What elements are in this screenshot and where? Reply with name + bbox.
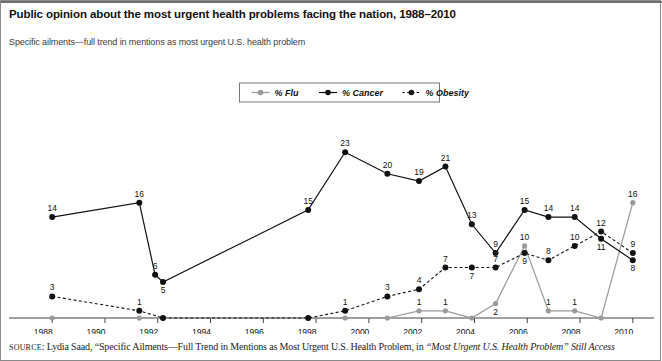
x-axis-tick-label: 2004: [456, 327, 475, 334]
data-point: [342, 308, 348, 314]
data-point: [342, 149, 348, 155]
data-point: [545, 257, 551, 263]
data-point-label: 1: [443, 297, 448, 307]
data-point-label: 1: [137, 297, 142, 307]
source-text-a: : Lydia Saad, “Specific Ailments—Full Tr…: [42, 341, 426, 352]
data-point-label: 10: [570, 232, 580, 242]
data-point-label: 6: [153, 261, 158, 271]
data-point: [416, 286, 422, 292]
data-point-label: 1: [572, 297, 577, 307]
data-point-label: 16: [135, 189, 145, 199]
data-point: [442, 164, 448, 170]
line-chart-svg: 1988199019921994199619982000200220042006…: [1, 61, 662, 334]
legend-marker: [409, 90, 415, 96]
data-point-label: 10: [520, 232, 530, 242]
data-point-label: 4: [417, 275, 422, 285]
source-label: SOURCE: [9, 343, 42, 352]
data-point: [384, 293, 390, 299]
data-point: [469, 315, 474, 320]
data-point-label: 13: [467, 210, 477, 220]
data-point: [572, 214, 578, 220]
x-axis-tick-label: 2008: [562, 327, 581, 334]
data-point-label: 3: [385, 282, 390, 292]
source-text-b: “Most Urgent U.S. Health Problem” Still …: [426, 341, 615, 352]
data-point: [572, 243, 578, 249]
data-point: [385, 315, 390, 320]
data-point-label: 11: [597, 242, 606, 252]
data-point: [493, 265, 499, 271]
data-point: [522, 243, 527, 248]
data-point-label: 14: [570, 203, 580, 213]
data-point: [136, 200, 142, 206]
data-point-label: 20: [383, 160, 393, 170]
legend-marker: [325, 90, 331, 96]
top-rule: [1, 1, 662, 3]
data-point: [160, 315, 166, 321]
data-point: [545, 214, 551, 220]
data-point-label: 16: [628, 189, 638, 199]
legend-label[interactable]: % Flu: [275, 88, 300, 98]
data-point-label: 15: [303, 196, 313, 206]
data-point: [50, 315, 55, 320]
data-point: [599, 315, 604, 320]
x-axis-tick-label: 1998: [298, 327, 317, 334]
data-point-label: 14: [47, 203, 57, 213]
data-point-label: 3: [50, 282, 55, 292]
data-point: [493, 301, 498, 306]
data-point-label: 15: [520, 196, 530, 206]
data-point: [630, 200, 635, 205]
x-axis-tick-label: 2006: [509, 327, 528, 334]
data-point-label: 1: [343, 297, 348, 307]
data-point-label: 14: [544, 203, 554, 213]
data-point-label: 19: [414, 167, 424, 177]
data-point: [136, 308, 142, 314]
data-point: [343, 315, 348, 320]
data-point: [522, 207, 528, 213]
data-point: [137, 315, 142, 320]
data-point-label: 7: [493, 254, 498, 264]
data-point-label: 2: [493, 307, 498, 317]
data-point-label: 12: [596, 218, 606, 228]
data-point: [305, 315, 311, 321]
data-point: [469, 221, 475, 227]
data-point-label: 7: [443, 254, 448, 264]
legend-label[interactable]: % Cancer: [342, 88, 384, 98]
x-axis-tick-label: 1996: [245, 327, 264, 334]
x-axis-tick-label: 1990: [87, 327, 106, 334]
data-point: [630, 250, 636, 256]
data-point-label: 8: [546, 246, 551, 256]
x-axis-tick-label: 2002: [403, 327, 422, 334]
source-note: SOURCE: Lydia Saad, “Specific Ailments—F…: [9, 341, 657, 352]
data-point: [598, 229, 604, 235]
legend-label[interactable]: % Obesity: [425, 88, 470, 98]
data-point: [384, 171, 390, 177]
chart-subtitle: Specific ailments—full trend in mentions…: [9, 37, 649, 47]
chart-plot-area: 1988199019921994199619982000200220042006…: [1, 61, 662, 334]
data-point: [443, 308, 448, 313]
data-point-label: 8: [630, 263, 635, 273]
legend-marker: [258, 90, 264, 96]
data-point: [572, 308, 577, 313]
x-axis-tick-label: 2010: [614, 327, 633, 334]
data-point-label: 21: [441, 153, 451, 163]
x-axis-tick-label: 2000: [350, 327, 369, 334]
data-point: [416, 178, 422, 184]
data-point-label: 1: [546, 297, 551, 307]
x-axis-tick-label: 1994: [192, 327, 211, 334]
data-point-label: 7: [469, 271, 474, 281]
data-point: [152, 272, 158, 278]
data-point: [305, 207, 311, 213]
data-point-label: 23: [340, 138, 350, 148]
data-point-label: 1: [417, 297, 422, 307]
data-point: [49, 214, 55, 220]
x-axis-tick-label: 1992: [139, 327, 158, 334]
data-point: [442, 265, 448, 271]
data-point: [546, 308, 551, 313]
data-point-label: 5: [161, 285, 166, 295]
x-axis-tick-label: 1988: [34, 327, 53, 334]
data-point-label: 9: [522, 256, 527, 266]
data-point: [49, 293, 55, 299]
data-point-label: 9: [493, 239, 498, 249]
page-title: Public opinion about the most urgent hea…: [9, 8, 649, 20]
